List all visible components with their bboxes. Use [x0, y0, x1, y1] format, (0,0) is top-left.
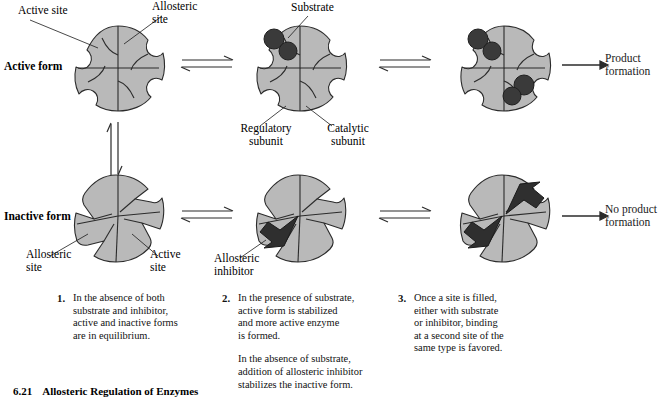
label-active-site-bottom: Active site [150, 248, 181, 273]
row-label-active-form: Active form [4, 60, 62, 72]
step-caption-1: 1. In the absence of both substrate and … [57, 292, 207, 342]
active-enzyme-two-substrates-icon [458, 22, 550, 114]
outcome-product-formation: Product formation [605, 52, 650, 78]
label-catalytic-subunit: Catalytic subunit [312, 122, 384, 147]
equilibrium-arrow-top-2 [378, 52, 434, 76]
label-allosteric-inhibitor: Allosteric inhibitor [214, 252, 259, 277]
equilibrium-arrow-bottom-2 [378, 203, 434, 227]
step-text-1-p1: In the absence of both substrate and inh… [73, 292, 207, 342]
figure-caption: 6.21Allosteric Regulation of Enzymes [2, 373, 198, 406]
leader-substrate [286, 14, 326, 44]
step-text-2-p2: In the absence of substrate, addition of… [238, 353, 390, 391]
label-allosteric-site-bottom: Allosteric site [26, 248, 71, 273]
outcome-no-product-formation: No product formation [605, 203, 657, 229]
label-allosteric-site-top: Allosteric site [152, 0, 197, 25]
step-number-1: 1. [57, 292, 65, 305]
figure-canvas: Active form Inactive form Active site Al… [0, 0, 661, 406]
step-number-3: 3. [398, 292, 406, 305]
step-text-3-p1: Once a site is filled, either with subst… [414, 292, 558, 355]
step-caption-2: 2. In the presence of substrate, active … [222, 292, 390, 391]
step-number-2: 2. [222, 292, 230, 305]
equilibrium-arrow-top-1 [180, 52, 236, 76]
row-label-inactive-form: Inactive form [4, 210, 71, 222]
label-regulatory-subunit: Regulatory subunit [228, 122, 304, 147]
step-text-2-p1: In the presence of substrate, active for… [238, 292, 390, 342]
figure-title: Allosteric Regulation of Enzymes [42, 385, 198, 397]
inactive-enzyme-two-inhibitors-icon [458, 172, 550, 264]
equilibrium-arrow-vertical [103, 120, 129, 178]
label-substrate: Substrate [291, 1, 334, 14]
equilibrium-arrow-bottom-1 [180, 203, 236, 227]
step-caption-3: 3. Once a site is filled, either with su… [398, 292, 558, 355]
figure-number: 6.21 [13, 385, 32, 397]
label-active-site-top: Active site [18, 4, 68, 17]
